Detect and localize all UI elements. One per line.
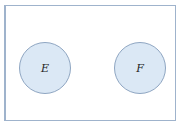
set-e-circle: E — [19, 42, 71, 94]
set-f-label: F — [136, 62, 144, 75]
set-e-label: E — [41, 62, 49, 75]
set-f-circle: F — [114, 42, 166, 94]
